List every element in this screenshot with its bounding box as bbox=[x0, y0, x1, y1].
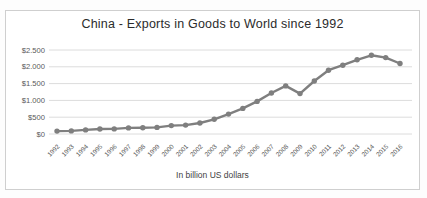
data-point-marker bbox=[140, 125, 145, 130]
x-axis-tick-label: 1997 bbox=[117, 142, 132, 157]
x-axis-tick-label: 2015 bbox=[374, 142, 389, 157]
x-axis-tick-label: 2014 bbox=[360, 142, 375, 157]
data-point-marker bbox=[154, 125, 159, 130]
data-point-marker bbox=[54, 128, 59, 133]
data-point-marker bbox=[240, 106, 245, 111]
x-axis-tick-label: 2013 bbox=[346, 142, 361, 157]
chart-caption: In billion US dollars bbox=[6, 170, 419, 180]
data-point-marker bbox=[312, 78, 317, 83]
chart-frame: China - Exports in Goods to World since … bbox=[5, 10, 420, 190]
x-axis-tick-label: 1995 bbox=[89, 142, 104, 157]
data-point-marker bbox=[340, 63, 345, 68]
data-point-marker bbox=[183, 122, 188, 127]
y-axis-tick-label: $0 bbox=[37, 130, 45, 139]
data-point-marker bbox=[397, 61, 402, 66]
x-axis-tick-label: 2006 bbox=[246, 142, 261, 157]
y-axis-tick-label: $2.000 bbox=[22, 62, 45, 71]
data-point-marker bbox=[383, 55, 388, 60]
x-axis-tick-label: 2001 bbox=[174, 142, 189, 157]
data-point-marker bbox=[369, 53, 374, 58]
y-axis-tick-label: $1.000 bbox=[22, 96, 45, 105]
x-axis-tick-label: 2010 bbox=[303, 142, 318, 157]
line-chart-plot-area: $2.500$2.000$1.500$1.000$500$01992199319… bbox=[6, 11, 419, 189]
x-axis-tick-label: 2007 bbox=[260, 142, 275, 157]
data-point-marker bbox=[297, 91, 302, 96]
data-point-marker bbox=[169, 123, 174, 128]
y-axis-tick-label: $2.500 bbox=[22, 46, 45, 55]
data-point-marker bbox=[283, 83, 288, 88]
x-axis-tick-label: 2008 bbox=[274, 142, 289, 157]
data-point-marker bbox=[326, 68, 331, 73]
data-point-marker bbox=[226, 111, 231, 116]
x-axis-tick-label: 2004 bbox=[217, 142, 232, 157]
data-point-marker bbox=[69, 128, 74, 133]
x-axis-tick-label: 2009 bbox=[289, 142, 304, 157]
x-axis-tick-label: 2011 bbox=[318, 142, 333, 157]
data-point-marker bbox=[197, 120, 202, 125]
screenshot-canvas: China - Exports in Goods to World since … bbox=[0, 0, 427, 198]
x-axis-tick-label: 2003 bbox=[203, 142, 218, 157]
x-axis-tick-label: 1992 bbox=[46, 142, 61, 157]
x-axis-tick-label: 2012 bbox=[332, 142, 347, 157]
y-axis-tick-label: $1.500 bbox=[22, 79, 45, 88]
x-axis-tick-label: 1996 bbox=[103, 142, 118, 157]
x-axis-tick-label: 2005 bbox=[231, 142, 246, 157]
data-point-marker bbox=[97, 126, 102, 131]
data-point-marker bbox=[112, 126, 117, 131]
data-point-marker bbox=[126, 125, 131, 130]
data-point-marker bbox=[269, 90, 274, 95]
data-point-marker bbox=[354, 57, 359, 62]
x-axis-tick-label: 2016 bbox=[389, 142, 404, 157]
x-axis-tick-label: 1998 bbox=[131, 142, 146, 157]
x-axis-tick-label: 1994 bbox=[74, 142, 89, 157]
x-axis-tick-label: 2002 bbox=[189, 142, 204, 157]
data-point-marker bbox=[83, 127, 88, 132]
data-point-marker bbox=[212, 117, 217, 122]
y-axis-tick-label: $500 bbox=[28, 113, 45, 122]
data-point-marker bbox=[254, 99, 259, 104]
x-axis-tick-label: 1999 bbox=[146, 142, 161, 157]
x-axis-tick-label: 1993 bbox=[60, 142, 75, 157]
x-axis-tick-label: 2000 bbox=[160, 142, 175, 157]
